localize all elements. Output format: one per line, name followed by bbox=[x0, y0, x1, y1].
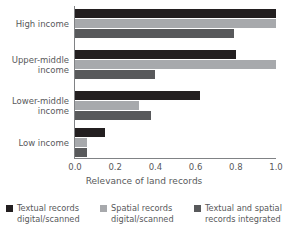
legend-item[interactable]: Textual and spatial records integrated bbox=[194, 203, 288, 224]
bar bbox=[75, 101, 139, 110]
chart-figure: High incomeUpper-middle incomeLower-midd… bbox=[0, 0, 288, 235]
bar-stack bbox=[75, 91, 200, 120]
x-axis-tick-label: 0.4 bbox=[140, 162, 170, 172]
bar bbox=[75, 50, 236, 59]
x-axis-tick-label: 0.6 bbox=[181, 162, 211, 172]
bar bbox=[75, 111, 151, 120]
bar bbox=[75, 60, 276, 69]
legend-label: Textual and spatial records integrated bbox=[205, 203, 282, 224]
bar bbox=[75, 148, 87, 157]
bar bbox=[75, 29, 234, 38]
x-axis-tick-label: 0.0 bbox=[60, 162, 90, 172]
bar bbox=[75, 91, 200, 100]
category-label: Upper-middle income bbox=[0, 55, 69, 75]
bar-stack bbox=[75, 9, 276, 38]
legend-swatch-icon bbox=[6, 205, 13, 212]
legend-item[interactable]: Textual records digital/scanned bbox=[6, 203, 100, 224]
bar bbox=[75, 138, 87, 147]
legend-label: Textual records digital/scanned bbox=[17, 203, 80, 224]
legend-label: Spatial records digital/scanned bbox=[111, 203, 174, 224]
x-axis-title: Relevance of land records bbox=[0, 176, 288, 186]
x-axis-tick-label: 0.8 bbox=[221, 162, 251, 172]
x-axis-tick-labels: 0.00.20.40.60.81.0 bbox=[0, 162, 288, 176]
bar bbox=[75, 9, 276, 18]
x-axis-tick-label: 0.2 bbox=[100, 162, 130, 172]
bar bbox=[75, 128, 105, 137]
bar-stack bbox=[75, 50, 276, 79]
category-label: High income bbox=[0, 19, 69, 29]
bar bbox=[75, 70, 155, 79]
x-axis-line bbox=[74, 158, 276, 159]
bar-stack bbox=[75, 128, 105, 157]
legend-swatch-icon bbox=[194, 205, 201, 212]
legend-swatch-icon bbox=[100, 205, 107, 212]
category-label: Low income bbox=[0, 138, 69, 148]
plot-area: High incomeUpper-middle incomeLower-midd… bbox=[0, 0, 288, 160]
x-axis-tick-label: 1.0 bbox=[261, 162, 288, 172]
legend-item[interactable]: Spatial records digital/scanned bbox=[100, 203, 194, 224]
bar bbox=[75, 19, 276, 28]
category-label: Lower-middle income bbox=[0, 96, 69, 116]
chart-legend: Textual records digital/scannedSpatial r… bbox=[6, 203, 288, 224]
